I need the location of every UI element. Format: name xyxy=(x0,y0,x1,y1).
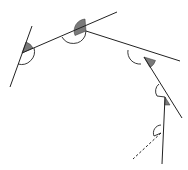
line-5 xyxy=(162,97,165,164)
line-2 xyxy=(22,12,117,53)
line-4 xyxy=(144,57,182,118)
dashed-line-6 xyxy=(133,133,161,159)
shaded-angle-a xyxy=(22,42,33,53)
line-3 xyxy=(86,31,180,61)
line-1 xyxy=(10,26,32,87)
interior-arc-d xyxy=(156,84,165,97)
interior-arc-c xyxy=(128,50,141,64)
shaded-angle-b xyxy=(74,19,86,36)
angle-path-diagram xyxy=(0,0,188,170)
